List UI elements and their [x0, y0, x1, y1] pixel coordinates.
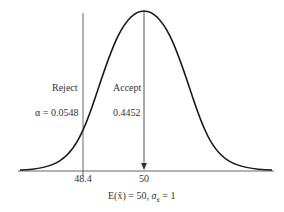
alpha-label: α = 0.0548	[35, 107, 78, 118]
reject-label: Reject	[52, 82, 78, 93]
expectation-text: E(x̄) = 50,	[108, 190, 149, 201]
caption: E(x̄) = 50, σx̄ = 1	[108, 190, 176, 204]
arrow-icon	[141, 163, 147, 170]
sigma-subscript: x̄	[156, 196, 160, 204]
sigma-value: = 1	[162, 190, 175, 201]
accept-probability-label: 0.4452	[113, 107, 141, 118]
accept-label: Accept	[113, 82, 141, 93]
tick-critical-value: 48.4	[74, 173, 92, 184]
tick-mean: 50	[139, 173, 149, 184]
